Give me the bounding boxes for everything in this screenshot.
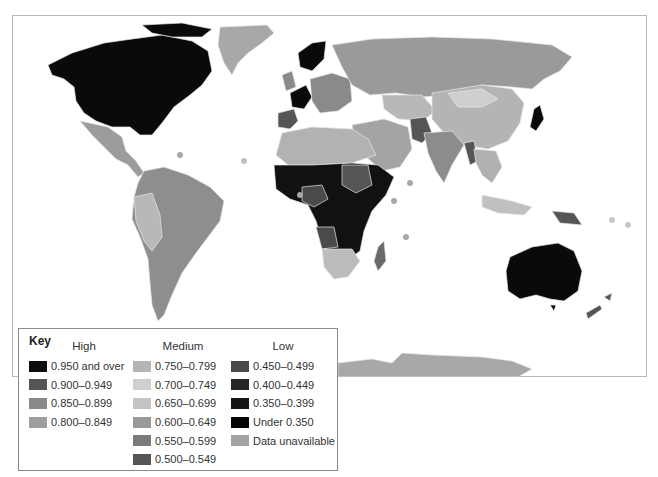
- key-item-label: 0.500–0.549: [155, 453, 216, 465]
- island-marker[interactable]: [407, 180, 413, 186]
- key-item: Under 0.350: [231, 413, 335, 432]
- region-france-benelux[interactable]: [290, 85, 312, 109]
- island-marker[interactable]: [391, 198, 397, 204]
- island-marker[interactable]: [177, 152, 183, 158]
- key-item-label: Data unavailable: [253, 435, 335, 447]
- color-swatch: [231, 435, 249, 446]
- key-group-high: High 0.950 and over 0.900–0.949 0.850–0.…: [29, 340, 139, 431]
- region-greenland[interactable]: [218, 25, 274, 75]
- key-item-label: 0.350–0.399: [253, 397, 314, 409]
- map-key: Key High 0.950 and over 0.900–0.949 0.85…: [18, 328, 338, 471]
- color-swatch: [133, 417, 151, 428]
- key-group-heading: High: [29, 340, 139, 352]
- region-south-america[interactable]: [132, 167, 224, 321]
- region-australia[interactable]: [506, 243, 582, 301]
- key-item-label: 0.400–0.449: [253, 379, 314, 391]
- key-item: 0.550–0.599: [133, 431, 233, 450]
- key-group-heading: Low: [231, 340, 335, 352]
- color-swatch: [29, 398, 47, 409]
- key-item-label: 0.650–0.699: [155, 397, 216, 409]
- color-swatch: [29, 361, 47, 372]
- key-item: 0.450–0.499: [231, 357, 335, 376]
- region-southeast-asia[interactable]: [474, 149, 502, 183]
- key-item: 0.850–0.899: [29, 394, 139, 413]
- world-map: [12, 15, 647, 377]
- key-item-label: 0.450–0.499: [253, 360, 314, 372]
- key-item-label: 0.850–0.899: [51, 397, 112, 409]
- island-marker[interactable]: [241, 158, 247, 164]
- color-swatch: [29, 417, 47, 428]
- color-swatch: [133, 361, 151, 372]
- region-russia[interactable]: [332, 37, 572, 97]
- region-madagascar[interactable]: [374, 241, 386, 271]
- key-item-label: Under 0.350: [253, 416, 314, 428]
- region-north-america[interactable]: [48, 35, 212, 135]
- key-item: 0.700–0.749: [133, 376, 233, 395]
- color-swatch: [29, 379, 47, 390]
- key-item-label: 0.750–0.799: [155, 360, 216, 372]
- key-group-low: Low 0.450–0.499 0.400–0.449 0.350–0.399 …: [231, 340, 335, 450]
- key-item: 0.600–0.649: [133, 413, 233, 432]
- key-group-medium: Medium 0.750–0.799 0.700–0.749 0.650–0.6…: [133, 340, 233, 469]
- region-sub-saharan-africa[interactable]: [274, 163, 394, 263]
- key-item: 0.750–0.799: [133, 357, 233, 376]
- key-item: 0.500–0.549: [133, 450, 233, 469]
- region-india[interactable]: [424, 131, 464, 183]
- color-swatch: [231, 379, 249, 390]
- region-japan[interactable]: [530, 105, 544, 131]
- region-new-zealand[interactable]: [586, 293, 612, 319]
- key-item: Data unavailable: [231, 431, 335, 450]
- region-new-guinea[interactable]: [552, 211, 582, 225]
- color-swatch: [133, 454, 151, 465]
- region-tasmania[interactable]: [550, 305, 556, 311]
- key-item-label: 0.800–0.849: [51, 416, 112, 428]
- region-southern-africa[interactable]: [322, 249, 360, 279]
- region-central-asia[interactable]: [382, 95, 436, 121]
- key-item-label: 0.600–0.649: [155, 416, 216, 428]
- island-marker[interactable]: [297, 192, 303, 198]
- key-item-label: 0.700–0.749: [155, 379, 216, 391]
- island-marker[interactable]: [625, 222, 631, 228]
- key-item-label: 0.950 and over: [51, 360, 124, 372]
- color-swatch: [133, 435, 151, 446]
- region-arctic-islands[interactable]: [142, 23, 212, 37]
- color-swatch: [231, 398, 249, 409]
- key-item: 0.350–0.399: [231, 394, 335, 413]
- color-swatch: [231, 417, 249, 428]
- region-western-europe[interactable]: [298, 41, 326, 71]
- key-item-label: 0.550–0.599: [155, 435, 216, 447]
- region-uk[interactable]: [282, 71, 296, 91]
- key-item: 0.800–0.849: [29, 413, 139, 432]
- key-item: 0.900–0.949: [29, 376, 139, 395]
- region-antarctica[interactable]: [338, 353, 532, 377]
- color-swatch: [231, 361, 249, 372]
- island-marker[interactable]: [403, 234, 409, 240]
- key-group-heading: Medium: [133, 340, 233, 352]
- region-angola[interactable]: [316, 227, 338, 249]
- key-item: 0.400–0.449: [231, 376, 335, 395]
- region-iberia[interactable]: [278, 109, 298, 129]
- color-swatch: [133, 398, 151, 409]
- island-marker[interactable]: [609, 217, 615, 223]
- key-item-label: 0.900–0.949: [51, 379, 112, 391]
- color-swatch: [133, 379, 151, 390]
- region-indonesia[interactable]: [482, 195, 532, 215]
- key-item: 0.950 and over: [29, 357, 139, 376]
- key-item: 0.650–0.699: [133, 394, 233, 413]
- region-central-europe[interactable]: [310, 73, 352, 113]
